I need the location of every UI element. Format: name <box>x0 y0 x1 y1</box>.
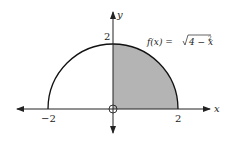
x-axis-label: x <box>214 103 220 114</box>
semicircle-diagram: y x 2 −2 2 f(x) = 4 − x 2 <box>0 0 228 141</box>
function-label: f(x) = 4 − x 2 <box>146 34 213 47</box>
svg-text:2: 2 <box>208 34 212 41</box>
x-tick-2: 2 <box>175 113 181 124</box>
shaded-region <box>113 44 178 109</box>
x-tick-neg2: −2 <box>41 113 56 124</box>
svg-text:f(x) =: f(x) = <box>146 37 173 47</box>
y-axis-label: y <box>116 9 123 20</box>
y-tick-2: 2 <box>104 31 110 42</box>
